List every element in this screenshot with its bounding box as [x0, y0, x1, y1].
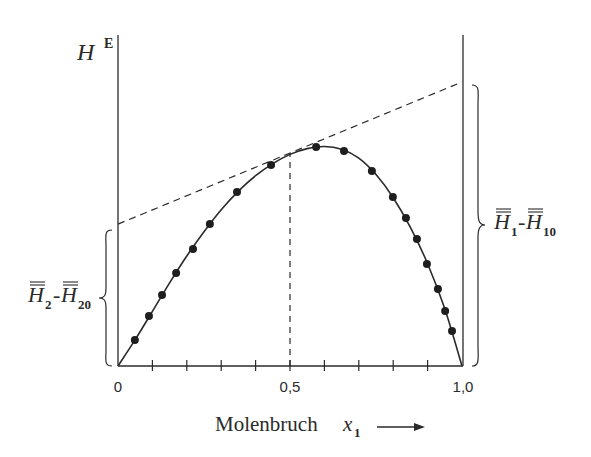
data-point	[368, 167, 376, 175]
data-point	[389, 193, 397, 201]
x-axis-label: Molenbruch	[215, 412, 318, 436]
tick-label-0: 0	[114, 378, 122, 395]
y-axis-label-superscript: E	[104, 36, 113, 51]
data-point	[448, 327, 456, 335]
data-point	[312, 143, 320, 151]
tick-label-0-5: 0,5	[280, 378, 301, 395]
left-brace-label: H 2 - H 20	[27, 282, 91, 312]
svg-text:H: H	[493, 209, 511, 234]
y-axis-label-main: H	[76, 39, 96, 65]
data-point	[145, 312, 153, 320]
svg-text:1: 1	[511, 224, 518, 239]
x-axis-variable-subscript: 1	[354, 425, 361, 440]
data-point	[172, 269, 180, 277]
data-point	[413, 235, 421, 243]
tick-label-1-0: 1,0	[453, 378, 474, 395]
data-point	[206, 220, 214, 228]
chart-canvas: 0 0,5 1,0 H E Molenbruch x 1 H 2 - H 20 …	[0, 0, 591, 457]
svg-text:2: 2	[45, 297, 52, 312]
x-axis-label-text: Molenbruch	[215, 412, 318, 436]
data-points	[131, 143, 456, 344]
y-axis-label: H	[76, 39, 96, 65]
data-point	[233, 188, 241, 196]
data-point	[189, 245, 197, 253]
svg-text:H: H	[27, 282, 45, 307]
left-brace	[99, 230, 112, 366]
svg-text:H: H	[525, 209, 543, 234]
data-point	[158, 291, 166, 299]
data-point	[434, 285, 442, 293]
data-point	[402, 214, 410, 222]
data-point	[267, 161, 275, 169]
arrow-right-icon	[377, 423, 425, 431]
svg-text:20: 20	[78, 297, 91, 312]
data-point	[441, 307, 449, 315]
data-point	[340, 147, 348, 155]
data-point	[423, 260, 431, 268]
fitted-curve	[118, 146, 462, 366]
x-axis-variable: x	[342, 412, 353, 436]
svg-text:-: -	[518, 209, 525, 234]
right-brace	[472, 85, 485, 366]
svg-text:10: 10	[543, 224, 556, 239]
data-point	[131, 336, 139, 344]
svg-text:-: -	[53, 282, 60, 307]
right-brace-label: H 1 - H 10	[493, 209, 556, 239]
svg-text:H: H	[60, 282, 78, 307]
